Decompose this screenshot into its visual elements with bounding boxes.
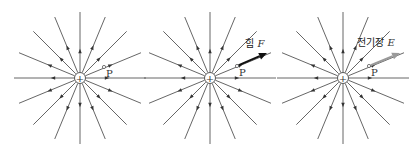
direction-arrow-icon [238,88,243,91]
direction-arrow-icon [181,76,185,80]
force-label-prefix: 힘 [245,38,254,49]
direction-arrow-icon [314,76,318,80]
point-p-label: P [106,68,113,79]
direction-arrow-icon [341,49,345,53]
direction-arrow-icon [208,103,212,107]
direction-arrow-icon [310,65,315,68]
direction-arrow-icon [108,88,113,91]
direction-arrow-icon [208,49,212,53]
field-label-prefix: 전기장 [357,37,384,48]
direction-arrow-icon [177,88,182,91]
direction-arrow-icon [78,49,82,53]
panel-2: + P 힘 F [144,12,276,144]
panel-1: + P [14,12,146,144]
force-label: 힘 F [245,38,266,49]
direction-arrow-icon [67,106,70,111]
field-arrow-icon [371,56,393,65]
direction-arrow-icon [197,45,200,50]
direction-arrow-icon [341,103,345,107]
plus-sign: + [339,73,347,84]
direction-arrow-icon [330,106,333,111]
direction-arrow-icon [353,45,356,50]
direction-arrow-icon [220,106,223,111]
direction-arrow-icon [220,45,223,50]
direction-arrow-icon [310,88,315,91]
direction-arrow-icon [177,65,182,68]
direction-arrow-icon [371,88,376,91]
force-arrow-icon [239,56,260,65]
direction-arrow-icon [330,45,333,50]
direction-arrow-icon [47,88,52,91]
field-diagram: + P + P 힘 F + P 전기장 E [0,0,413,156]
field-label: 전기장 E [357,37,396,48]
direction-arrow-icon [51,76,55,80]
point-p-label: P [239,67,246,78]
direction-arrow-icon [47,65,52,68]
plus-sign: + [76,73,84,84]
direction-arrow-icon [78,103,82,107]
force-symbol: F [257,38,266,49]
direction-arrow-icon [197,106,200,111]
direction-arrow-icon [90,45,93,50]
direction-arrow-icon [90,106,93,111]
direction-arrow-icon [353,106,356,111]
point-p-label: P [371,67,378,78]
panel-3: + P 전기장 E [277,12,409,144]
field-symbol: E [387,37,396,48]
direction-arrow-icon [67,45,70,50]
plus-sign: + [206,73,214,84]
